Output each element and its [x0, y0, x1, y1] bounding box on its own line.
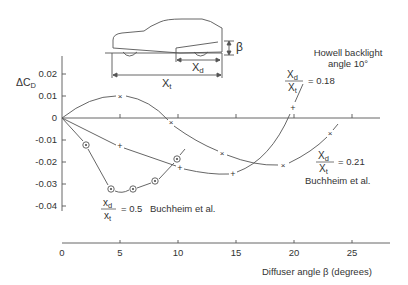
car-diagram: [105, 19, 234, 78]
x-axis-label: Diffuser angle β (degrees): [262, 266, 372, 277]
svg-text:= 0.18: = 0.18: [308, 75, 335, 86]
svg-text:angle 10°: angle 10°: [328, 58, 368, 69]
svg-text:Buchheim et al.: Buchheim et al.: [150, 203, 215, 214]
svg-text:0: 0: [52, 112, 57, 123]
svg-text:×: ×: [220, 149, 225, 158]
svg-text:Xd: Xd: [287, 69, 298, 82]
svg-text:-0.02: -0.02: [35, 156, 57, 167]
x-tick-labels: 0 5 10 15 20 25: [59, 247, 357, 258]
svg-text:+: +: [177, 163, 182, 173]
x-axis: [62, 240, 390, 243]
svg-text:+: +: [117, 141, 122, 151]
svg-text:25: 25: [347, 247, 358, 258]
annotation-buchheim-021: Xd Xt = 0.21 Buchheim et al.: [305, 150, 370, 186]
svg-text:xd: xd: [103, 197, 112, 210]
xt-label: Xt: [162, 77, 172, 91]
svg-text:×: ×: [328, 129, 333, 138]
svg-text:Xt: Xt: [288, 82, 298, 95]
chart: β Xd Xt 0.02 0.01 0 -0.01 -0.02 -0.03 -0…: [0, 0, 408, 285]
svg-text:-0.01: -0.01: [35, 134, 57, 145]
svg-text:10: 10: [173, 247, 184, 258]
svg-text:+: +: [290, 103, 295, 113]
svg-text:×: ×: [118, 92, 123, 101]
svg-text:+: +: [230, 169, 235, 179]
svg-text:= 0.5: = 0.5: [121, 203, 142, 214]
annotation-buchheim-05: xd xt = 0.5 Buchheim et al.: [101, 197, 215, 223]
svg-text:×: ×: [169, 118, 174, 127]
series-buchheim-05: [62, 118, 185, 192]
xd-label: Xd: [192, 61, 204, 75]
svg-text:0.02: 0.02: [39, 68, 58, 79]
annotation-howell: Howell backlight angle 10° Xd Xt = 0.18: [285, 47, 383, 95]
beta-label: β: [236, 40, 243, 54]
y-axis-label: ΔCD: [16, 76, 37, 90]
svg-text:-0.04: -0.04: [35, 200, 57, 211]
svg-text:0: 0: [59, 247, 64, 258]
svg-text:-0.03: -0.03: [35, 178, 57, 189]
svg-text:0.01: 0.01: [39, 90, 58, 101]
svg-text:xt: xt: [104, 210, 112, 223]
svg-text:Buchheim et al.: Buchheim et al.: [305, 175, 370, 186]
svg-text:15: 15: [231, 247, 242, 258]
svg-text:20: 20: [289, 247, 300, 258]
svg-text:Howell backlight: Howell backlight: [314, 47, 383, 58]
svg-text:5: 5: [117, 247, 122, 258]
series-buchheim-021: × × × × ×: [62, 92, 338, 170]
svg-text:= 0.21: = 0.21: [338, 156, 365, 167]
y-tick-labels: 0.02 0.01 0 -0.01 -0.02 -0.03 -0.04: [35, 68, 57, 211]
svg-text:Xd: Xd: [318, 150, 329, 163]
svg-text:×: ×: [281, 161, 286, 170]
